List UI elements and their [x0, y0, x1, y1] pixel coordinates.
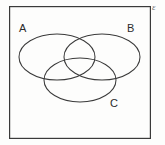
venn-diagram-figure: A B C ε [0, 0, 165, 145]
set-ellipse-b [64, 34, 140, 80]
universe-epsilon-annotation: ε [152, 3, 156, 12]
set-label-a: A [19, 23, 26, 34]
set-label-c: C [110, 98, 118, 109]
set-label-b: B [127, 23, 134, 34]
set-ellipse-a [19, 34, 95, 80]
